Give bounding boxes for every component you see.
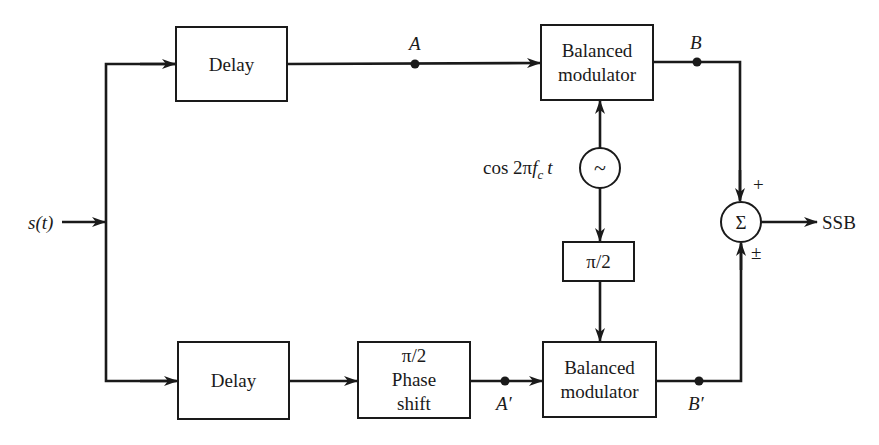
ssb-block-diagram: s(t) Delay A Balanced modulator B ~ cos …	[0, 0, 879, 445]
balanced-modulator-top: Balanced modulator	[541, 25, 653, 100]
node-B-label: B	[690, 32, 702, 53]
oscillator-symbol: ~	[594, 155, 606, 180]
node-A-prime	[501, 377, 510, 386]
node-B-prime	[695, 377, 704, 386]
summer-symbol: Σ	[735, 212, 746, 233]
node-B	[693, 58, 702, 67]
node-A-label: A	[407, 33, 421, 54]
phase-shift-line1: π/2	[402, 345, 426, 366]
summer: Σ	[721, 202, 761, 242]
wire-B-prime	[656, 244, 741, 381]
carrier-phase-shift-block: π/2	[563, 242, 634, 281]
modulator-top-line2: modulator	[558, 64, 637, 85]
summer-sign-bottom: ±	[751, 242, 761, 263]
summer-sign-top: +	[753, 174, 764, 195]
modulator-bottom-line1: Balanced	[564, 357, 635, 378]
input-label: s(t)	[28, 212, 53, 234]
phase-shift-line3: shift	[397, 393, 432, 414]
node-B-prime-label: B′	[688, 393, 705, 414]
balanced-modulator-bottom: Balanced modulator	[543, 342, 656, 417]
split-wire	[106, 64, 176, 381]
node-A	[411, 60, 420, 69]
delay-bottom-block: Delay	[178, 342, 289, 419]
output-label: SSB	[822, 212, 856, 233]
carrier-phase-shift-label: π/2	[586, 251, 610, 272]
phase-shift-line2: Phase	[392, 369, 436, 390]
delay-bottom-label: Delay	[211, 370, 257, 391]
modulator-top-line1: Balanced	[562, 40, 633, 61]
node-A-prime-label: A′	[494, 393, 513, 414]
delay-top-block: Delay	[176, 27, 287, 101]
oscillator: ~	[580, 148, 620, 188]
carrier-label: cos 2πfct	[483, 157, 553, 182]
signal-phase-shift-block: π/2 Phase shift	[358, 342, 470, 418]
delay-top-label: Delay	[209, 54, 255, 75]
modulator-bottom-line2: modulator	[560, 381, 639, 402]
wire-B	[653, 62, 740, 200]
